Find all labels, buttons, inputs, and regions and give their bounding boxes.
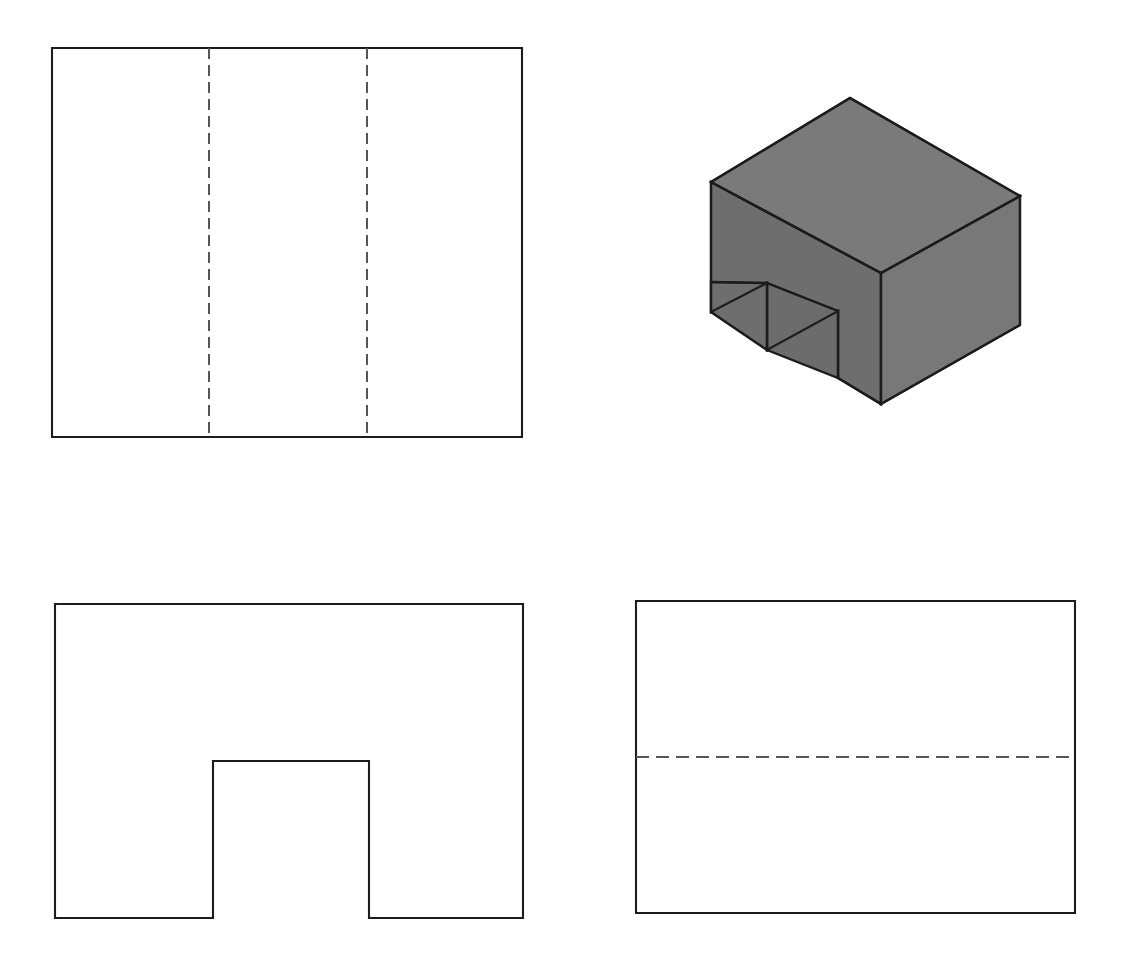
pictorial-notch-side-wall xyxy=(711,282,767,350)
orthographic-drawing-canvas xyxy=(0,0,1132,967)
isometric-pictorial-view xyxy=(711,98,1020,404)
drawing-sheet xyxy=(0,0,1132,967)
front-view-outline xyxy=(55,604,523,918)
front-view xyxy=(55,604,523,918)
right-side-view xyxy=(636,601,1075,913)
top-view xyxy=(52,48,522,437)
top-view-outline xyxy=(52,48,522,437)
